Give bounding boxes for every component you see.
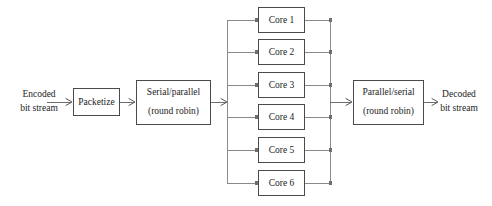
parallel-serial-label-line1: Parallel/serial (362, 87, 415, 97)
block-diagram-canvas: Encoded bit stream Packetize Serial/para… (0, 0, 492, 206)
core-3-label: Core 3 (269, 80, 295, 90)
wire-parallel-serial-to-decoded (424, 99, 438, 106)
block-core-4[interactable]: Core 4 (259, 105, 305, 130)
wire-fanin-to-parallel-serial (330, 99, 352, 106)
block-core-2[interactable]: Core 2 (259, 40, 305, 65)
block-core-6[interactable]: Core 6 (259, 171, 305, 196)
wire-serial-parallel-to-fanout (211, 99, 227, 106)
packetize-label: Packetize (78, 97, 114, 107)
block-packetize[interactable]: Packetize (74, 89, 120, 116)
encoded-bit-stream-label: Encoded bit stream (20, 89, 58, 113)
diagram-svg: Encoded bit stream Packetize Serial/para… (0, 0, 492, 206)
serial-parallel-label-line1: Serial/parallel (147, 87, 201, 97)
encoded-label-line1: Encoded (22, 89, 55, 99)
block-core-5[interactable]: Core 5 (259, 138, 305, 163)
block-parallel-serial[interactable]: Parallel/serial (round robin) (354, 81, 424, 125)
fan-in-bus (305, 18, 332, 185)
parallel-serial-label-line2: (round robin) (363, 106, 414, 117)
decoded-bit-stream-label: Decoded bit stream (440, 89, 478, 113)
core-2-label: Core 2 (269, 47, 295, 57)
core-group: Core 1 Core 2 Core 3 Core 4 Core 5 Core … (259, 8, 305, 196)
core-5-label: Core 5 (269, 145, 295, 155)
core-6-label: Core 6 (269, 178, 295, 188)
serial-parallel-label-line2: (round robin) (148, 106, 199, 117)
wire-packetize-to-serial-parallel (120, 99, 135, 106)
encoded-label-line2: bit stream (20, 103, 58, 113)
decoded-label-line2: bit stream (440, 103, 478, 113)
block-core-1[interactable]: Core 1 (259, 8, 305, 33)
decoded-label-line1: Decoded (442, 89, 476, 99)
block-core-3[interactable]: Core 3 (259, 73, 305, 98)
core-1-label: Core 1 (269, 15, 295, 25)
block-serial-parallel[interactable]: Serial/parallel (round robin) (137, 81, 211, 125)
fan-out-bus (227, 18, 258, 185)
core-4-label: Core 4 (269, 112, 295, 122)
